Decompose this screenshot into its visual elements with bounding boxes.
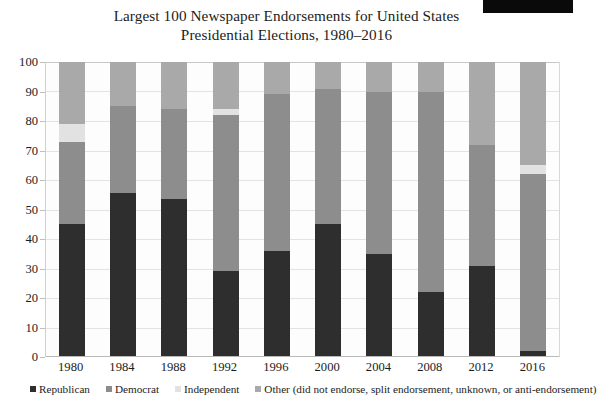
bar-segment[interactable]	[59, 62, 85, 124]
x-axis: 1980198419881992199620002004200820122016	[45, 360, 558, 378]
y-axis-tick-label: 100	[2, 55, 38, 70]
y-axis-tick-mark	[40, 357, 45, 358]
bar-segment[interactable]	[264, 94, 290, 250]
plot-area	[45, 62, 560, 357]
bar-column[interactable]	[161, 62, 187, 357]
bar-column[interactable]	[110, 62, 136, 357]
bar-segment[interactable]	[213, 62, 239, 109]
legend-item[interactable]: Republican	[30, 383, 90, 395]
legend-label: Republican	[39, 383, 90, 395]
bar-column[interactable]	[315, 62, 341, 357]
chart-title: Largest 100 Newspaper Endorsements for U…	[0, 6, 573, 44]
bar-segment[interactable]	[110, 62, 136, 106]
bar-column[interactable]	[469, 62, 495, 357]
legend-item[interactable]: Democrat	[106, 383, 159, 395]
legend-label: Other (did not endorse, split endorsemen…	[264, 383, 596, 395]
bar-segment[interactable]	[520, 165, 546, 174]
bar-segment[interactable]	[315, 62, 341, 89]
x-axis-tick-label: 1996	[263, 360, 288, 375]
legend-item[interactable]: Other (did not endorse, split endorsemen…	[255, 383, 596, 395]
bar-segment[interactable]	[161, 62, 187, 109]
bar-segment[interactable]	[264, 62, 290, 94]
y-axis-tick-label: 20	[2, 291, 38, 306]
bar-segment[interactable]	[59, 224, 85, 357]
x-axis-tick-label: 1988	[161, 360, 186, 375]
bar-segment[interactable]	[315, 89, 341, 225]
bar-column[interactable]	[366, 62, 392, 357]
bar-segment[interactable]	[418, 292, 444, 357]
bar-column[interactable]	[520, 62, 546, 357]
legend-label: Democrat	[115, 383, 159, 395]
bar-segment[interactable]	[110, 106, 136, 193]
bar-segment[interactable]	[418, 62, 444, 92]
x-axis-tick-label: 2004	[366, 360, 391, 375]
bar-segment[interactable]	[213, 271, 239, 357]
bar-series-container	[46, 62, 559, 357]
bar-column[interactable]	[59, 62, 85, 357]
bar-segment[interactable]	[161, 109, 187, 199]
bar-segment[interactable]	[469, 145, 495, 266]
legend-swatch-icon	[106, 386, 112, 392]
bar-segment[interactable]	[59, 124, 85, 142]
bar-segment[interactable]	[213, 115, 239, 271]
y-axis-tick-label: 70	[2, 143, 38, 158]
x-axis-tick-label: 1992	[212, 360, 237, 375]
y-axis-tick-label: 30	[2, 261, 38, 276]
bar-column[interactable]	[418, 62, 444, 357]
y-axis-tick-label: 0	[2, 350, 38, 365]
bar-segment[interactable]	[366, 92, 392, 254]
bar-segment[interactable]	[418, 92, 444, 293]
chart-title-line2: Presidential Elections, 1980–2016	[0, 25, 573, 44]
y-axis-tick-label: 60	[2, 173, 38, 188]
x-axis-tick-label: 1980	[58, 360, 83, 375]
bar-segment[interactable]	[469, 62, 495, 145]
legend-swatch-icon	[30, 386, 36, 392]
bar-segment[interactable]	[366, 254, 392, 357]
y-axis-tick-label: 10	[2, 320, 38, 335]
chart-legend: RepublicanDemocratIndependentOther (did …	[0, 381, 573, 397]
legend-swatch-icon	[255, 386, 261, 392]
y-axis-tick-label: 50	[2, 202, 38, 217]
y-axis-tick-label: 40	[2, 232, 38, 247]
bar-column[interactable]	[264, 62, 290, 357]
bar-segment[interactable]	[59, 142, 85, 225]
x-axis-tick-label: 2008	[417, 360, 442, 375]
bar-segment[interactable]	[520, 174, 546, 351]
chart-title-line1: Largest 100 Newspaper Endorsements for U…	[114, 7, 460, 24]
bar-segment[interactable]	[469, 266, 495, 357]
bar-segment[interactable]	[161, 199, 187, 357]
bar-segment[interactable]	[520, 62, 546, 165]
bar-segment[interactable]	[213, 109, 239, 115]
bar-segment[interactable]	[366, 62, 392, 92]
x-axis-tick-label: 2012	[468, 360, 493, 375]
bar-segment[interactable]	[110, 193, 136, 357]
x-axis-tick-label: 1984	[109, 360, 134, 375]
bar-column[interactable]	[213, 62, 239, 357]
bar-segment[interactable]	[264, 251, 290, 357]
legend-swatch-icon	[175, 386, 181, 392]
legend-label: Independent	[184, 383, 239, 395]
x-axis-tick-label: 2000	[315, 360, 340, 375]
bar-segment[interactable]	[315, 224, 341, 357]
legend-item[interactable]: Independent	[175, 383, 239, 395]
axis-baseline	[46, 356, 559, 357]
y-axis-tick-label: 90	[2, 84, 38, 99]
x-axis-tick-label: 2016	[520, 360, 545, 375]
y-axis-tick-label: 80	[2, 114, 38, 129]
